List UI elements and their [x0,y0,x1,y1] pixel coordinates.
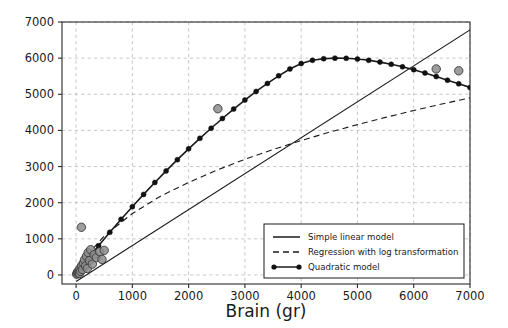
series-marker [186,146,191,151]
x-axis-title: Brain (gr) [225,301,306,321]
series-marker [231,107,236,112]
chart-legend: Simple linear modelRegression with log t… [264,224,464,278]
y-tick-label: 7000 [25,15,54,29]
series-marker [456,81,461,86]
series-marker [468,85,473,90]
x-tick-label: 1000 [118,289,147,303]
legend-entry-label: Quadratic model [308,262,380,272]
series-marker [344,56,349,61]
series-marker [310,58,315,63]
series-marker [377,60,382,65]
chart-canvas: 0100020003000400050006000700001000200030… [0,0,508,328]
scatter-point [214,105,222,113]
y-tick-label: 6000 [25,51,54,65]
y-tick-label: 0 [47,268,54,282]
series-marker [299,61,304,66]
y-tick-label: 4000 [25,123,54,137]
series-marker [321,56,326,61]
series-marker [445,78,450,83]
series-marker [366,58,371,63]
series-marker [175,157,180,162]
series-marker [119,217,124,222]
series-marker [434,74,439,79]
x-tick-label: 7000 [455,289,484,303]
scatter-point [455,67,463,75]
x-tick-label: 6000 [399,289,428,303]
series-marker [287,66,292,71]
series-marker [332,56,337,61]
scatter-point [98,255,106,263]
series-marker [242,98,247,103]
series-marker [130,204,135,209]
scatter-point [432,65,440,73]
legend-entry-label: Regression with log transformation [308,247,458,257]
x-tick-label: 0 [72,289,79,303]
series-marker [389,62,394,67]
series-marker [422,70,427,75]
scatter-point [77,223,85,231]
series-marker [197,136,202,141]
legend-entry-label: Simple linear model [308,232,394,242]
y-tick-label: 1000 [25,232,54,246]
series-marker [265,81,270,86]
y-tick-label: 3000 [25,160,54,174]
series-marker [411,67,416,72]
series-marker [152,180,157,185]
x-tick-label: 2000 [174,289,203,303]
scatter-point [100,246,108,254]
series-marker [276,73,281,78]
series-marker [400,64,405,69]
y-tick-label: 2000 [25,196,54,210]
series-marker [254,89,259,94]
series-marker [355,57,360,62]
x-tick-label: 5000 [343,289,372,303]
series-marker [107,230,112,235]
series-marker [164,168,169,173]
series-marker [220,116,225,121]
series-marker [141,192,146,197]
y-tick-label: 5000 [25,87,54,101]
series-marker [209,126,214,131]
chart-figure: 0100020003000400050006000700001000200030… [0,0,508,328]
